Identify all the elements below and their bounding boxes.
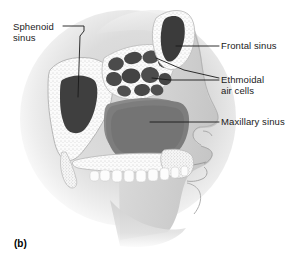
figure-caption: (b) xyxy=(14,238,27,249)
sinus-anatomy-figure: Sphenoid sinus Frontal sinus Ethmoidal a… xyxy=(0,0,308,258)
label-ethmoidal-air-cells: Ethmoidal air cells xyxy=(221,74,264,96)
label-sphenoid-sinus: Sphenoid sinus xyxy=(13,21,54,43)
label-frontal-sinus: Frontal sinus xyxy=(221,40,277,51)
label-maxillary-sinus: Maxillary sinus xyxy=(221,116,285,127)
